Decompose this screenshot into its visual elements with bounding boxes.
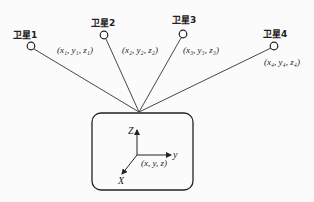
satellite-1-coord: (x₁, y₁, z₁) xyxy=(57,45,93,55)
satellite-4-label: 卫星4 xyxy=(263,29,287,39)
satellite-4-icon xyxy=(270,42,278,50)
satellite-2-coord: (x₂, y₂, z₂) xyxy=(122,45,158,55)
satellite-1-label: 卫星1 xyxy=(13,30,37,40)
x-axis-label: X xyxy=(117,175,125,186)
satellite-1-icon xyxy=(27,42,35,50)
z-axis-label: Z xyxy=(128,125,134,136)
receiver: Z y X (x, y, z) xyxy=(92,113,193,190)
satellite-2-label: 卫星2 xyxy=(91,18,115,28)
satellite-4: 卫星4 (x₄, y₄, z₄) xyxy=(263,29,300,67)
satellite-2-icon xyxy=(100,31,108,39)
signal-line-1 xyxy=(34,49,139,112)
satellite-2: 卫星2 (x₂, y₂, z₂) xyxy=(91,18,158,55)
satellite-positioning-diagram: 卫星1 (x₁, y₁, z₁) 卫星2 (x₂, y₂, z₂) 卫星3 (x… xyxy=(0,0,314,202)
satellite-1: 卫星1 (x₁, y₁, z₁) xyxy=(13,30,93,55)
satellite-3-label: 卫星3 xyxy=(172,15,196,25)
receiver-box xyxy=(92,113,193,190)
receiver-coord: (x, y, z) xyxy=(141,158,167,168)
signal-line-4 xyxy=(139,48,271,112)
satellite-4-coord: (x₄, y₄, z₄) xyxy=(264,57,300,67)
y-axis-label: y xyxy=(172,149,178,160)
satellite-3: 卫星3 (x₃, y₃, z₃) xyxy=(172,15,219,55)
satellite-3-icon xyxy=(179,30,187,38)
satellite-3-coord: (x₃, y₃, z₃) xyxy=(183,45,219,55)
